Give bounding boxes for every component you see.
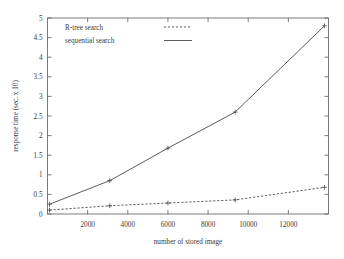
y-axis-label: response time (sec. x 10): [12, 80, 20, 152]
x-tick-label: 10000: [239, 221, 257, 229]
y-tick-label: 3: [39, 93, 43, 101]
series-line-2: [50, 26, 325, 204]
x-tick-label: 4000: [121, 221, 136, 229]
legend-label: R-tree search: [65, 24, 104, 32]
y-tick-label: 4.5: [34, 34, 43, 42]
y-tick-label: 4: [39, 54, 43, 62]
y-tick-label: 2.5: [34, 113, 43, 121]
y-tick-label: 1: [39, 171, 43, 179]
x-tick-label: 6000: [161, 221, 176, 229]
line-chart: 2000400060008000100001200000.511.522.533…: [0, 0, 344, 259]
y-tick-label: 0.5: [34, 191, 43, 199]
x-axis-label: number of stored image: [154, 238, 222, 246]
y-tick-label: 2: [39, 132, 43, 140]
x-tick-label: 8000: [201, 221, 216, 229]
legend-label: sequential search: [65, 37, 115, 45]
x-tick-label: 2000: [80, 221, 95, 229]
y-tick-label: 1.5: [34, 152, 43, 160]
y-tick-label: 3.5: [34, 73, 43, 81]
plot-frame: [48, 18, 329, 214]
series-line-1: [50, 187, 325, 210]
y-tick-label: 0: [39, 211, 43, 219]
y-tick-label: 5: [39, 15, 43, 23]
x-tick-label: 12000: [279, 221, 297, 229]
chart-figure: 2000400060008000100001200000.511.522.533…: [0, 0, 344, 259]
